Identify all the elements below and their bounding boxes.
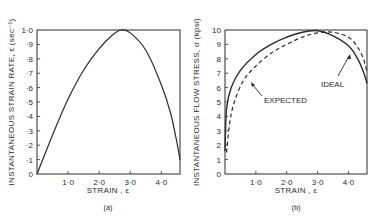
y-tick-label: 1 — [217, 156, 222, 165]
y-tick-label: ·8 — [26, 55, 34, 64]
expected-annotation: EXPECTED — [264, 96, 307, 105]
y-tick-label: 5 — [217, 98, 222, 107]
y-tick-label: 0 — [29, 170, 34, 179]
panel-b-caption: (b) — [291, 203, 301, 212]
panel-a-x-ticks: 1·02·03·04·0 — [62, 171, 167, 187]
panel-b-y-axis-label: INSTANTANEOUS FLOW STRESS, σ (kpsi) — [192, 18, 201, 186]
y-tick-label: 6 — [217, 84, 222, 93]
y-tick-label: 1·0 — [21, 26, 33, 35]
y-tick-label: ·4 — [26, 112, 34, 121]
y-tick-label: 4 — [217, 112, 222, 121]
ideal-arrow-head-icon — [347, 54, 351, 59]
x-tick-label: 4·0 — [343, 178, 355, 187]
ideal-annotation: IDEAL — [321, 80, 345, 89]
panel-a-chart: 0·1·2·3·4·5·6·7·8·91·0 1·02·03·04·0 STRA… — [7, 19, 180, 212]
figure: 0·1·2·3·4·5·6·7·8·91·0 1·02·03·04·0 STRA… — [0, 0, 374, 222]
y-tick-label: 9 — [217, 40, 222, 49]
panel-a-x-axis-label: STRAIN , ε — [87, 186, 130, 195]
panel-b-y-ticks: 012345678910 — [212, 26, 228, 179]
x-tick-label: 1·0 — [250, 178, 262, 187]
y-tick-label: 3 — [217, 127, 222, 136]
panel-a-strain-rate-curve — [37, 30, 180, 174]
y-tick-label: 2 — [217, 141, 222, 150]
panel-b-x-ticks: 1·02·03·04·0 — [250, 171, 355, 187]
y-tick-label: ·7 — [26, 69, 34, 78]
y-tick-label: ·2 — [26, 141, 34, 150]
panel-a-frame — [37, 30, 180, 174]
y-tick-label: 7 — [217, 69, 222, 78]
y-tick-label: 8 — [217, 55, 222, 64]
panel-b-ideal-curve — [225, 31, 367, 151]
panel-a-caption: (a) — [103, 203, 113, 212]
y-tick-label: ·5 — [26, 98, 34, 107]
y-tick-label: ·9 — [26, 40, 34, 49]
y-tick-label: ·6 — [26, 84, 34, 93]
panel-b-expected-curve — [227, 32, 368, 153]
panel-b-chart: 012345678910 1·02·03·04·0 EXPECTED IDEAL… — [192, 18, 367, 212]
y-tick-label: ·1 — [26, 156, 34, 165]
panel-b-x-axis-label: STRAIN , ε — [275, 186, 318, 195]
y-tick-label: 10 — [212, 26, 221, 35]
x-tick-label: 4·0 — [156, 178, 168, 187]
y-tick-label: ·3 — [26, 127, 34, 136]
panel-a-y-axis-label: INSTANTANEOUS STRAIN RATE, ε̇ (sec⁻¹) — [7, 19, 16, 186]
x-tick-label: 1·0 — [62, 178, 74, 187]
y-tick-label: 0 — [217, 170, 222, 179]
